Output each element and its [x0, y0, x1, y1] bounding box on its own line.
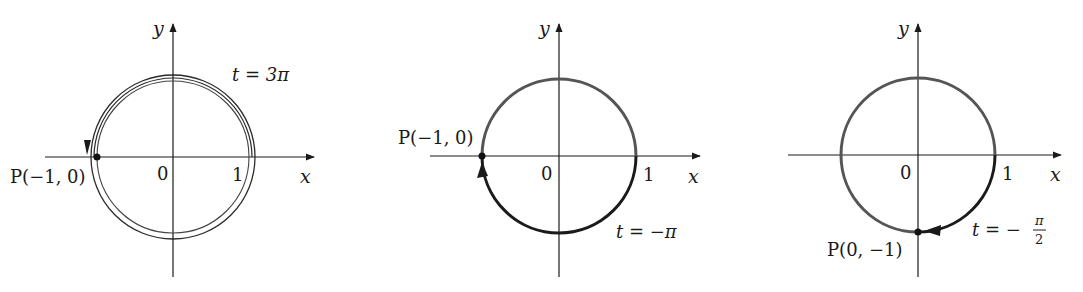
- x-axis-label: x: [300, 165, 311, 187]
- y-axis-label: y: [897, 17, 909, 39]
- y-axis-label: y: [538, 17, 550, 39]
- unit-circle-figure: y x 0 1 P(−1, 0) t = 3π y x 0 1 P(−1, 0)…: [0, 0, 1083, 292]
- direction-arrow-icon: [84, 140, 91, 155]
- one-label: 1: [643, 164, 654, 185]
- panel-2: y x 0 1 P(−1, 0) t = −π: [398, 17, 700, 277]
- direction-arrow-icon: [924, 225, 941, 236]
- point-label: P(−1, 0): [10, 166, 86, 187]
- point-marker: [479, 153, 486, 160]
- origin-label: 0: [541, 163, 552, 184]
- t-label: t = 3π: [232, 64, 290, 85]
- panel-3: y x 0 1 P(0, −1) t = − π 2: [788, 17, 1061, 277]
- origin-label: 0: [157, 163, 168, 184]
- t-label: t = −π: [616, 221, 678, 242]
- point-marker: [94, 154, 101, 161]
- x-axis-label: x: [688, 165, 699, 187]
- x-axis-label: x: [1050, 163, 1061, 185]
- point-label: P(−1, 0): [398, 127, 474, 148]
- t-label-prefix: t = −: [972, 219, 1021, 240]
- panel-1: y x 0 1 P(−1, 0) t = 3π: [10, 17, 314, 277]
- t-label-denominator: 2: [1035, 232, 1043, 247]
- t-label-numerator: π: [1034, 213, 1044, 228]
- one-label: 1: [232, 164, 243, 185]
- y-axis-label: y: [152, 17, 164, 39]
- point-label: P(0, −1): [827, 239, 903, 260]
- one-label: 1: [1002, 163, 1013, 184]
- direction-arrow-icon: [477, 162, 488, 178]
- origin-label: 0: [900, 162, 911, 183]
- point-marker: [915, 229, 922, 236]
